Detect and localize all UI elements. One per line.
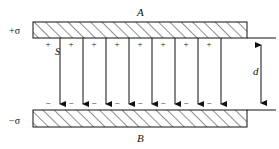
bottom-plate-B bbox=[33, 110, 247, 127]
bottom-plate-label: B bbox=[137, 133, 144, 144]
plus-sign: + bbox=[205, 40, 213, 49]
positive-charge-density-label: +σ bbox=[9, 26, 20, 36]
plus-sign: + bbox=[44, 40, 52, 49]
plus-sign: + bbox=[159, 40, 167, 49]
plus-sign: + bbox=[113, 40, 121, 49]
top-plate-label: A bbox=[137, 7, 144, 18]
parallel-plate-capacitor-figure: A B +σ −σ S d + + + + + + + + − − − − − … bbox=[0, 0, 279, 149]
capacitor-diagram-svg bbox=[0, 0, 279, 149]
plus-sign: + bbox=[67, 40, 75, 49]
minus-sign: − bbox=[182, 99, 190, 108]
minus-sign: − bbox=[205, 99, 213, 108]
minus-sign: − bbox=[67, 99, 75, 108]
minus-sign: − bbox=[90, 99, 98, 108]
separation-label: d bbox=[253, 66, 259, 77]
top-plate-A bbox=[33, 22, 247, 38]
minus-sign: − bbox=[159, 99, 167, 108]
plus-sign: + bbox=[90, 40, 98, 49]
negative-charge-density-label: −σ bbox=[9, 116, 20, 126]
plus-sign: + bbox=[182, 40, 190, 49]
minus-sign: − bbox=[136, 99, 144, 108]
area-label: S bbox=[55, 47, 60, 57]
minus-sign: − bbox=[44, 99, 52, 108]
plus-sign: + bbox=[136, 40, 144, 49]
minus-sign: − bbox=[113, 99, 121, 108]
